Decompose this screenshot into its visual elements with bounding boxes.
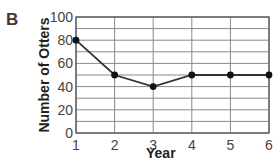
data-point-marker — [266, 72, 273, 79]
y-tick-label: 60 — [57, 55, 73, 71]
y-tick-label: 40 — [57, 79, 73, 95]
x-tick-label: 1 — [72, 137, 80, 153]
y-tick-label: 20 — [57, 102, 73, 118]
x-tick-label: 2 — [111, 137, 119, 153]
data-point-marker — [111, 72, 118, 79]
data-point-marker — [150, 83, 157, 90]
line-chart: 020406080100123456 — [0, 0, 278, 166]
y-tick-label: 80 — [57, 32, 73, 48]
data-point-marker — [188, 72, 195, 79]
y-tick-label: 100 — [50, 9, 74, 25]
data-point-marker — [227, 72, 234, 79]
x-tick-label: 4 — [188, 137, 196, 153]
x-tick-label: 6 — [265, 137, 273, 153]
x-tick-label: 3 — [149, 137, 157, 153]
data-point-marker — [73, 37, 80, 44]
x-tick-label: 5 — [227, 137, 235, 153]
